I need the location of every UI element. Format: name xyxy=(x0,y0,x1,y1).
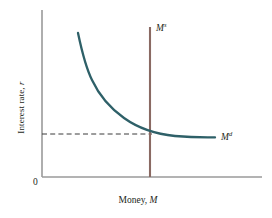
x-axis-title: Money, M xyxy=(96,196,180,206)
money-supply-label-base: M xyxy=(156,23,164,33)
money-demand-label-superscript: d xyxy=(229,130,232,137)
money-demand-label-base: M xyxy=(221,132,229,142)
money-demand-curve-label: Md xyxy=(221,131,232,143)
money-market-chart: Interest rate, r Money, M 0 Ms Md xyxy=(0,0,272,218)
money-demand-curve xyxy=(78,33,215,137)
chart-canvas xyxy=(0,0,272,218)
x-axis-title-text: Money, M xyxy=(119,195,158,205)
y-axis-title: Interest rate, r xyxy=(17,56,26,160)
money-supply-label-superscript: s xyxy=(164,21,167,28)
money-supply-curve-label: Ms xyxy=(156,22,166,34)
origin-label: 0 xyxy=(33,178,38,188)
